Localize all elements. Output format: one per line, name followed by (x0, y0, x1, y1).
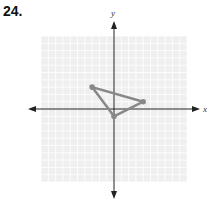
y-axis-label: y (110, 8, 115, 18)
coordinate-plane: x y (0, 0, 211, 208)
x-axis-label: x (202, 104, 207, 114)
x-axis-right-arrow-icon (192, 106, 200, 112)
x-axis-left-arrow-icon (28, 106, 36, 112)
vertex-point (111, 114, 117, 120)
vertex-point (140, 99, 146, 105)
y-axis-up-arrow-icon (111, 21, 117, 29)
y-axis-down-arrow-icon (111, 191, 117, 199)
vertex-point (89, 84, 95, 90)
